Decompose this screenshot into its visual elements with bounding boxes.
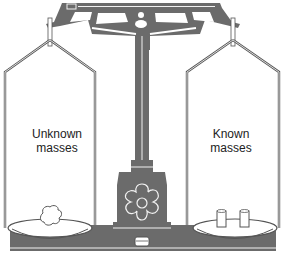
known-label-line1: Known — [196, 127, 266, 141]
leveling-knob — [135, 237, 149, 246]
left-pan — [8, 206, 92, 239]
unknown-mass-rock — [40, 206, 61, 226]
pivot-bearing — [135, 20, 147, 28]
unknown-masses-label: Unknown masses — [22, 127, 92, 155]
unknown-label-line1: Unknown — [22, 127, 92, 141]
mechanism-housing — [113, 172, 171, 236]
left-pan-hanger — [5, 18, 95, 228]
unknown-label-line2: masses — [22, 141, 92, 155]
balance-diagram: Unknown masses Known masses — [0, 0, 285, 261]
known-mass-weight-1 — [217, 210, 226, 228]
right-pan-hanger — [187, 18, 279, 228]
known-masses-label: Known masses — [196, 127, 266, 155]
known-label-line2: masses — [196, 141, 266, 155]
known-mass-weight-2 — [240, 210, 249, 228]
pivot-knife — [138, 12, 144, 18]
right-pan — [193, 210, 277, 239]
